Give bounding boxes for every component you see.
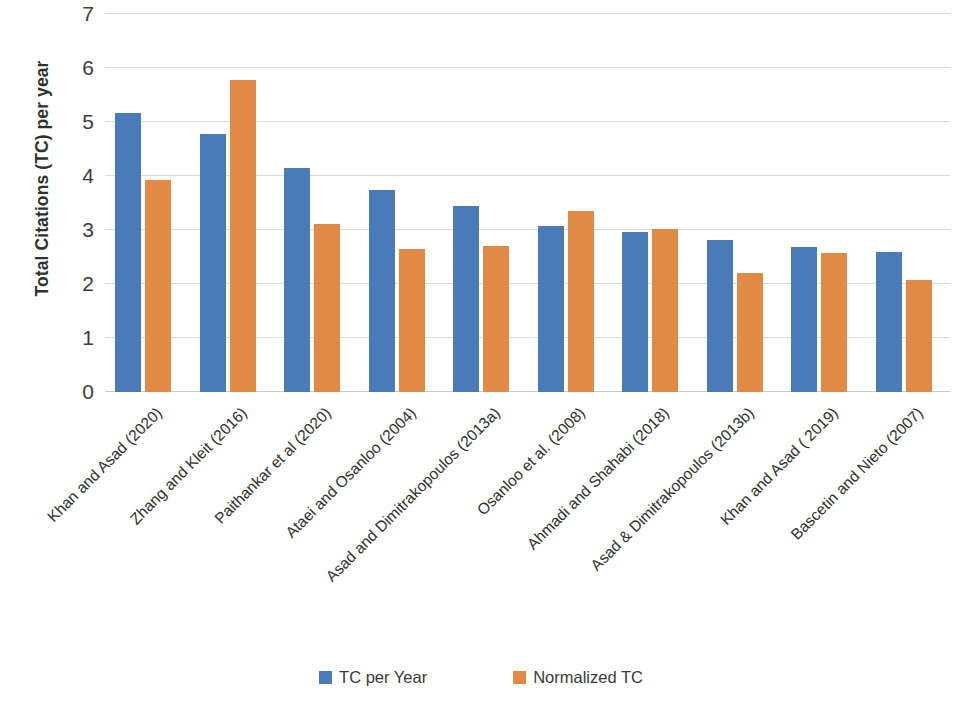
bar-group [274,14,359,392]
bar-chart: Total Citations (TC) per year 01234567 K… [0,0,962,711]
bar-1-0[interactable] [145,180,171,392]
bar-0-7[interactable] [707,240,733,392]
y-tick-label-7: 7 [60,3,94,24]
bar-group [866,14,951,392]
bar-0-2[interactable] [284,168,310,392]
bar-group [612,14,697,392]
y-tick-label-0: 0 [60,381,94,402]
bar-0-8[interactable] [791,247,817,392]
bar-group [190,14,275,392]
bar-group [105,14,190,392]
bar-1-2[interactable] [314,224,340,392]
bar-group [443,14,528,392]
bar-0-0[interactable] [115,113,141,392]
bar-1-6[interactable] [652,229,678,392]
y-tick-label-5: 5 [60,111,94,132]
bar-1-9[interactable] [906,280,932,392]
bar-1-7[interactable] [737,273,763,392]
bar-1-3[interactable] [399,249,425,392]
legend-swatch-normalized-tc [513,671,526,684]
bar-0-5[interactable] [538,226,564,392]
y-tick-label-2: 2 [60,273,94,294]
bar-1-5[interactable] [568,211,594,392]
bar-group [359,14,444,392]
y-tick-label-4: 4 [60,165,94,186]
legend-label-1: Normalized TC [533,668,643,687]
bar-0-9[interactable] [876,252,902,392]
legend-entry-0[interactable]: TC per Year [319,668,427,687]
bar-1-1[interactable] [230,80,256,392]
bar-group [781,14,866,392]
bar-0-1[interactable] [200,134,226,392]
bar-group [528,14,613,392]
y-tick-label-3: 3 [60,219,94,240]
bar-0-3[interactable] [369,190,395,393]
bar-0-6[interactable] [622,232,648,392]
bars-layer [105,14,950,392]
y-tick-label-1: 1 [60,327,94,348]
legend-label-0: TC per Year [339,668,427,687]
legend-entry-1[interactable]: Normalized TC [513,668,643,687]
y-tick-label-6: 6 [60,57,94,78]
bar-1-8[interactable] [821,253,847,392]
bar-1-4[interactable] [483,246,509,392]
chart-legend: TC per YearNormalized TC [0,668,962,687]
legend-swatch-tc-per-year [319,671,332,684]
bar-group [697,14,782,392]
bar-0-4[interactable] [453,206,479,392]
